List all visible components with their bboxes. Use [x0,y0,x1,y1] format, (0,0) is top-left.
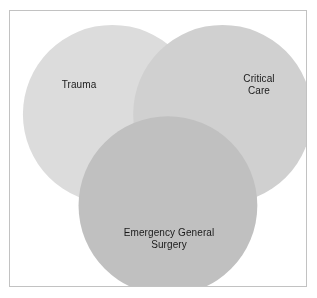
figure-frame-border: Trauma Critical Care Emergency General S… [9,10,307,287]
venn-diagram-figure: Trauma Critical Care Emergency General S… [0,0,317,298]
venn-circles-canvas [10,11,306,286]
venn-circle-group [23,25,306,286]
